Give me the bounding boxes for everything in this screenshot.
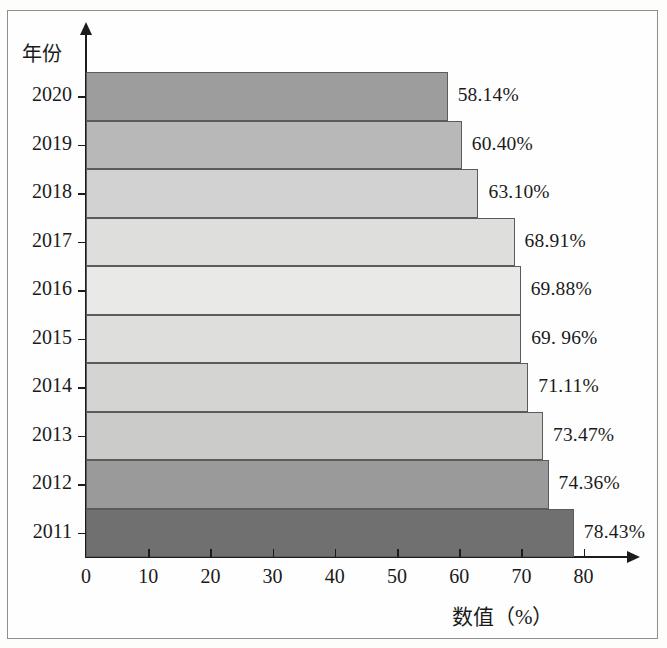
- y-tick-2017: [78, 242, 86, 244]
- x-tick-40: [335, 549, 337, 557]
- x-tick-label-10: 10: [125, 565, 171, 588]
- bar-value-label-2016: 69.88%: [531, 278, 592, 300]
- bar-value-label-2011: 78.43%: [584, 521, 645, 543]
- y-tick-2016: [78, 290, 86, 292]
- bar-row: [86, 509, 574, 558]
- y-tick-2015: [78, 339, 86, 341]
- bar-2015[interactable]: [86, 315, 521, 364]
- y-axis-title: 年份: [22, 38, 62, 67]
- y-tick-2020: [78, 96, 86, 98]
- x-tick-70: [521, 549, 523, 557]
- bar-row: [86, 169, 478, 218]
- bar-value-label-2018: 63.10%: [488, 181, 549, 203]
- bar-row: [86, 218, 515, 267]
- bar-row: [86, 460, 549, 509]
- bar-value-label-2015: 69. 96%: [531, 327, 597, 349]
- bar-2012[interactable]: [86, 460, 549, 509]
- x-tick-label-80: 80: [561, 565, 607, 588]
- chart-figure: 年份 58.14%60.40%63.10%68.91%69.88%69. 96%…: [0, 0, 667, 648]
- y-tick-2011: [78, 533, 86, 535]
- y-tick-label-2018: 2018: [0, 180, 72, 203]
- bar-row: [86, 363, 528, 412]
- x-tick-label-60: 60: [436, 565, 482, 588]
- y-tick-label-2012: 2012: [0, 471, 72, 494]
- plot-area: 年份 58.14%60.40%63.10%68.91%69.88%69. 96%…: [0, 0, 667, 648]
- y-tick-label-2020: 2020: [0, 83, 72, 106]
- y-tick-label-2017: 2017: [0, 229, 72, 252]
- y-tick-2018: [78, 193, 86, 195]
- y-tick-label-2019: 2019: [0, 132, 72, 155]
- bar-row: [86, 412, 543, 461]
- y-tick-label-2013: 2013: [0, 423, 72, 446]
- y-axis-arrow-icon: [80, 22, 92, 35]
- bar-row: [86, 121, 462, 170]
- x-tick-20: [210, 549, 212, 557]
- bar-2016[interactable]: [86, 266, 521, 315]
- x-tick-label-40: 40: [312, 565, 358, 588]
- x-tick-label-20: 20: [187, 565, 233, 588]
- x-tick-label-0: 0: [63, 565, 109, 588]
- x-axis-title: 数值（%）: [452, 600, 554, 630]
- bar-value-label-2020: 58.14%: [458, 84, 519, 106]
- bar-value-label-2012: 74.36%: [559, 472, 620, 494]
- y-tick-2012: [78, 484, 86, 486]
- x-axis-arrow-icon: [627, 551, 640, 563]
- y-tick-label-2014: 2014: [0, 374, 72, 397]
- bar-row: [86, 72, 448, 121]
- bar-2019[interactable]: [86, 121, 462, 170]
- x-tick-30: [273, 549, 275, 557]
- bar-value-label-2014: 71.11%: [538, 375, 599, 397]
- bar-row: [86, 266, 521, 315]
- y-tick-label-2016: 2016: [0, 277, 72, 300]
- y-tick-label-2011: 2011: [0, 520, 72, 543]
- x-tick-label-70: 70: [498, 565, 544, 588]
- bar-2011[interactable]: [86, 509, 574, 558]
- x-tick-10: [148, 549, 150, 557]
- x-tick-60: [459, 549, 461, 557]
- x-tick-50: [397, 549, 399, 557]
- x-tick-80: [584, 549, 586, 557]
- x-tick-label-30: 30: [250, 565, 296, 588]
- bar-2014[interactable]: [86, 363, 528, 412]
- bar-value-label-2013: 73.47%: [553, 424, 614, 446]
- bar-value-label-2019: 60.40%: [472, 133, 533, 155]
- y-tick-2019: [78, 145, 86, 147]
- bar-value-label-2017: 68.91%: [525, 230, 586, 252]
- bar-2013[interactable]: [86, 412, 543, 461]
- x-tick-label-50: 50: [374, 565, 420, 588]
- y-tick-label-2015: 2015: [0, 326, 72, 349]
- bar-row: [86, 315, 521, 364]
- y-tick-2013: [78, 436, 86, 438]
- bar-2018[interactable]: [86, 169, 478, 218]
- bar-2020[interactable]: [86, 72, 448, 121]
- y-tick-2014: [78, 387, 86, 389]
- bar-2017[interactable]: [86, 218, 515, 267]
